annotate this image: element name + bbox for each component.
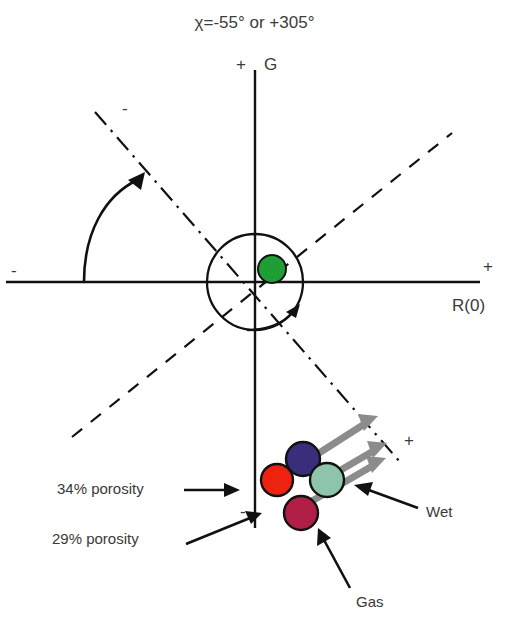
data-circle-green[interactable] xyxy=(258,255,286,283)
chi-axis-minus-sign: - xyxy=(122,100,128,117)
vertical-axis-plus-sign: + xyxy=(236,56,246,73)
data-circle-crimson[interactable] xyxy=(284,496,318,530)
rotation-arrow-icon xyxy=(84,172,145,282)
annotation-wet: Wet xyxy=(426,504,452,519)
annotation-gas: Gas xyxy=(356,594,384,609)
horizontal-axis-label: R(0) xyxy=(452,297,485,314)
dash-dot-chi-axis xyxy=(95,112,400,462)
data-circle-teal[interactable] xyxy=(310,463,344,497)
page-title: χ=-55° or +305° xyxy=(0,14,509,31)
pointer-arrow-porosity-29 xyxy=(186,511,262,544)
chi-axis-plus-sign: + xyxy=(404,432,414,449)
vertical-axis-minus-sign: - xyxy=(240,503,246,520)
horizontal-axis-minus-sign: - xyxy=(11,262,17,279)
pointer-arrow-gas xyxy=(317,528,350,588)
pointer-arrow-porosity-34 xyxy=(184,483,240,497)
vertical-axis-label: G xyxy=(264,56,277,73)
horizontal-axis-plus-sign: + xyxy=(483,258,493,275)
pointer-arrow-wet xyxy=(354,482,418,508)
data-circle-red[interactable] xyxy=(261,464,293,496)
annotation-porosity-34: 34% porosity xyxy=(57,481,144,496)
annotation-porosity-29: 29% porosity xyxy=(52,531,139,546)
trend-arrow-icon-upper xyxy=(316,414,378,455)
dashed-diagonal-line xyxy=(72,133,452,437)
diagram-canvas: χ=-55° or +305° + G + R(0) - - - + 34% p… xyxy=(0,0,509,629)
